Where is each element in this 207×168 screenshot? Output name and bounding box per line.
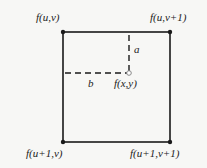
label-b: b [88, 77, 94, 89]
label-top-left: f(u,v) [36, 11, 60, 23]
corner-point-top-left [61, 30, 65, 34]
label-bottom-left: f(u+1,v) [26, 147, 62, 159]
label-top-right: f(u,v+1) [150, 11, 186, 23]
label-point: f(x,y) [114, 77, 137, 89]
corner-point-bottom-right [168, 140, 172, 144]
corner-point-bottom-left [61, 140, 65, 144]
corner-point-top-right [168, 30, 172, 34]
interpolated-point [127, 71, 132, 76]
bilinear-interpolation-diagram [0, 0, 207, 168]
label-a: a [134, 43, 140, 55]
label-bottom-right: f(u+1,v+1) [130, 147, 179, 159]
